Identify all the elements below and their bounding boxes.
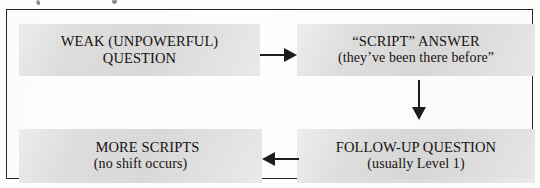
node-more-scripts-line2: (no shift occurs) (94, 156, 187, 173)
node-more-scripts-line1: MORE SCRIPTS (82, 139, 200, 156)
arrow-shaft (260, 54, 287, 56)
node-weak-question: WEAK (UNPOWERFUL) QUESTION (19, 24, 260, 76)
arrow-shaft (418, 80, 420, 110)
node-more-scripts: MORE SCRIPTS (no shift occurs) (19, 129, 262, 183)
node-script-answer-line1: “SCRIPT” ANSWER (352, 33, 480, 50)
arrow-left-icon (262, 150, 299, 167)
node-script-answer: “SCRIPT” ANSWER (they’ve been there befo… (297, 24, 535, 76)
arrow-head (284, 48, 297, 62)
scan-artifact-fragment (37, 2, 40, 5)
scan-artifact-fragment (113, 1, 116, 4)
arrow-head (412, 107, 426, 120)
arrow-head (262, 152, 275, 166)
node-followup-question: FOLLOW-UP QUESTION (usually Level 1) (297, 129, 535, 183)
node-followup-question-line2: (usually Level 1) (367, 156, 464, 173)
node-weak-question-line1: WEAK (UNPOWERFUL) (61, 33, 219, 50)
diagram-canvas: WEAK (UNPOWERFUL) QUESTION “SCRIPT” ANSW… (0, 0, 540, 188)
arrow-shaft (272, 158, 299, 160)
node-script-answer-line2: (they’ve been there before” (338, 50, 494, 67)
node-weak-question-line2: QUESTION (103, 50, 176, 67)
diagram-frame: WEAK (UNPOWERFUL) QUESTION “SCRIPT” ANSW… (6, 9, 533, 179)
arrow-right-icon (260, 46, 297, 63)
arrow-down-icon (410, 80, 427, 122)
node-followup-question-line1: FOLLOW-UP QUESTION (336, 139, 496, 156)
